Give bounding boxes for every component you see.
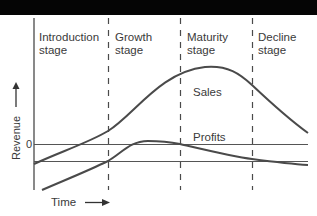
stage-label-line2: stage [187, 44, 228, 57]
product-life-cycle-diagram: Introduction stage Growth stage Maturity… [0, 0, 317, 216]
stage-label-growth: Growth stage [115, 31, 152, 57]
stage-label-line1: Growth [115, 31, 152, 44]
stage-label-introduction: Introduction stage [39, 31, 99, 57]
revenue-arrowhead [13, 82, 20, 89]
x-axis-label: Time [51, 196, 76, 209]
sales-label: Sales [193, 86, 222, 99]
stage-label-decline: Decline stage [258, 31, 296, 57]
zero-tick-label: 0 [26, 138, 32, 151]
y-axis-label: Revenue [10, 116, 22, 160]
stage-label-line2: stage [115, 44, 152, 57]
profits-label: Profits [193, 131, 226, 144]
time-arrowhead [102, 199, 110, 206]
stage-label-maturity: Maturity stage [187, 31, 228, 57]
sales-curve [34, 67, 308, 164]
profits-curve [42, 141, 308, 190]
stage-label-line1: Decline [258, 31, 296, 44]
stage-label-line1: Introduction [39, 31, 99, 44]
stage-label-line2: stage [39, 44, 99, 57]
stage-label-line1: Maturity [187, 31, 228, 44]
stage-label-line2: stage [258, 44, 296, 57]
